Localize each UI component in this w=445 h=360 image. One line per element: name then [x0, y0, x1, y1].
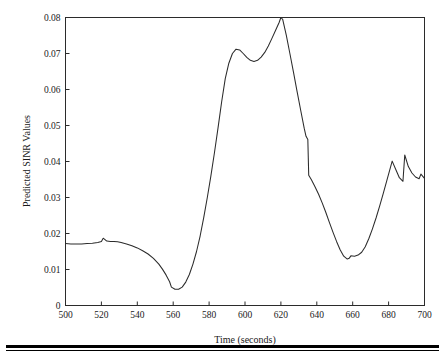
x-tick-label: 620 — [274, 310, 289, 320]
footer-rule — [6, 345, 439, 348]
y-tick-label: 0.07 — [44, 49, 61, 59]
x-tick-label: 580 — [202, 310, 217, 320]
x-axis-ticks: 500520540560580600620640660680700 — [58, 302, 432, 320]
y-tick-label: 0.06 — [44, 85, 61, 95]
plot-area-frame — [66, 18, 425, 306]
y-tick-label: 0 — [56, 301, 61, 311]
x-tick-label: 680 — [381, 310, 396, 320]
data-series-line — [66, 18, 425, 290]
footer-rule-thin — [6, 350, 439, 351]
y-tick-label: 0.03 — [44, 193, 61, 203]
x-tick-label: 600 — [238, 310, 253, 320]
chart-figure: 500520540560580600620640660680700 00.010… — [0, 0, 445, 360]
sinr-line-chart: 500520540560580600620640660680700 00.010… — [0, 0, 445, 360]
x-tick-label: 540 — [130, 310, 145, 320]
y-tick-label: 0.08 — [44, 13, 61, 23]
x-tick-label: 700 — [417, 310, 432, 320]
x-tick-label: 500 — [58, 310, 73, 320]
x-tick-label: 520 — [94, 310, 109, 320]
x-tick-label: 640 — [310, 310, 325, 320]
y-tick-label: 0.04 — [44, 157, 61, 167]
y-tick-label: 0.01 — [44, 265, 61, 275]
y-tick-label: 0.05 — [44, 121, 61, 131]
y-axis-title: Predicted SINR Values — [21, 115, 32, 207]
x-tick-label: 660 — [346, 310, 361, 320]
x-tick-label: 560 — [166, 310, 181, 320]
y-tick-label: 0.02 — [44, 229, 61, 239]
